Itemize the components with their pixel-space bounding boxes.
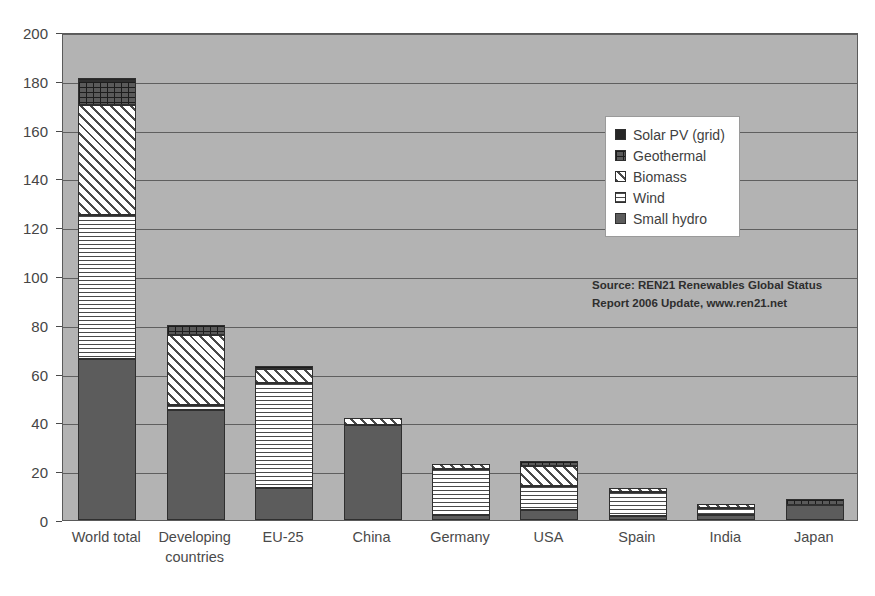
solid-black-swatch-icon: [615, 129, 626, 140]
bar-segment-small-hydro: [255, 488, 313, 520]
bar-segment-small-hydro: [167, 410, 225, 520]
legend-item: Biomass: [615, 166, 725, 187]
bar-segment-small-hydro: [78, 359, 136, 520]
y-axis-tick-label: 40: [31, 415, 48, 432]
bar-segment-wind: [167, 405, 225, 410]
y-axis-tick-mark: [56, 131, 62, 132]
bar-eu-25: [255, 32, 313, 520]
x-axis-label: China: [327, 527, 415, 547]
y-axis-tick-label: 20: [31, 464, 48, 481]
bar-developing-countries: [167, 32, 225, 520]
legend-item: Geothermal: [615, 145, 725, 166]
x-axis-label: USA: [504, 527, 592, 547]
bar-segment-biomass: [344, 418, 402, 425]
bar-segment-small-hydro: [432, 515, 490, 520]
y-axis-tick-mark: [56, 228, 62, 229]
bar-segment-wind: [609, 492, 667, 516]
source-note-line-1: Source: REN21 Renewables Global Status: [592, 276, 875, 294]
legend-item-label: Small hydro: [633, 211, 707, 227]
legend-item: Solar PV (grid): [615, 124, 725, 145]
y-axis-tick-label: 100: [23, 269, 48, 286]
x-axis-label: EU-25: [239, 527, 327, 547]
bar-germany: [432, 32, 490, 520]
y-axis-tick-label: 200: [23, 25, 48, 42]
y-axis-tick-mark: [56, 82, 62, 83]
bar-segment-geothermal: [786, 499, 844, 505]
diagonal-hatch-swatch-icon: [615, 171, 626, 182]
bar-usa: [520, 32, 578, 520]
y-axis-tick-label: 60: [31, 366, 48, 383]
bar-segment-biomass: [78, 105, 136, 215]
solid-dark-swatch-icon: [615, 213, 626, 224]
bar-segment-wind: [78, 215, 136, 359]
legend-item: Small hydro: [615, 208, 725, 229]
bar-segment-biomass: [697, 504, 755, 508]
legend-item: Wind: [615, 187, 725, 208]
x-axis-label: Japan: [770, 527, 858, 547]
y-axis-tick-mark: [56, 179, 62, 180]
legend: Solar PV (grid)GeothermalBiomassWindSmal…: [605, 116, 740, 237]
bar-segment-small-hydro: [609, 516, 667, 520]
y-axis-tick-label: 180: [23, 73, 48, 90]
y-axis-tick-mark: [56, 277, 62, 278]
bar-segment-wind: [255, 383, 313, 488]
legend-item-label: Solar PV (grid): [633, 127, 725, 143]
source-note-line-2: Report 2006 Update, www.ren21.net: [592, 294, 875, 312]
bar-segment-biomass: [520, 466, 578, 486]
x-axis-label: India: [681, 527, 769, 547]
y-axis-tick-label: 140: [23, 171, 48, 188]
bar-segment-wind: [432, 469, 490, 515]
bar-segment-small-hydro: [786, 505, 844, 520]
legend-item-label: Wind: [633, 190, 665, 206]
bar-segment-biomass: [167, 335, 225, 406]
x-axis-label: Spain: [593, 527, 681, 547]
y-axis-tick-mark: [56, 375, 62, 376]
bar-segment-solar-pv-grid-: [78, 78, 136, 80]
y-axis-tick-label: 0: [40, 513, 48, 530]
bar-china: [344, 32, 402, 520]
bar-segment-wind: [520, 486, 578, 510]
stacked-bar-chart: 200180160140120100806040200 Solar PV (gr…: [0, 0, 875, 596]
y-axis-tick-label: 80: [31, 317, 48, 334]
y-axis-tick-mark: [56, 33, 62, 34]
bar-segment-small-hydro: [697, 515, 755, 520]
plot-area: Solar PV (grid)GeothermalBiomassWindSmal…: [62, 33, 858, 521]
bar-segment-geothermal: [167, 325, 225, 335]
x-axis-label: Germany: [416, 527, 504, 547]
bar-segment-biomass: [609, 488, 667, 492]
bar-segment-geothermal: [255, 366, 313, 368]
y-axis-tick-mark: [56, 521, 62, 522]
y-axis-tick-label: 120: [23, 220, 48, 237]
bar-segment-geothermal: [78, 81, 136, 105]
bar-segment-geothermal: [520, 461, 578, 466]
bar-world-total: [78, 32, 136, 520]
y-axis: 200180160140120100806040200: [0, 0, 56, 596]
y-axis-tick-mark: [56, 326, 62, 327]
bar-segment-biomass: [432, 464, 490, 469]
bar-segment-wind: [697, 508, 755, 515]
y-axis-tick-label: 160: [23, 122, 48, 139]
x-axis: World totalDeveloping countriesEU-25Chin…: [62, 527, 858, 587]
horizontal-lines-swatch-icon: [615, 192, 626, 203]
x-axis-label: World total: [62, 527, 150, 547]
bar-segment-biomass: [255, 369, 313, 384]
bar-segment-small-hydro: [344, 425, 402, 520]
bar-segment-small-hydro: [520, 510, 578, 520]
y-axis-tick-mark: [56, 472, 62, 473]
source-note: Source: REN21 Renewables Global Status R…: [592, 276, 875, 312]
y-axis-tick-mark: [56, 423, 62, 424]
legend-item-label: Geothermal: [633, 148, 706, 164]
x-axis-label: Developing countries: [150, 527, 238, 567]
brick-swatch-icon: [615, 150, 626, 161]
legend-item-label: Biomass: [633, 169, 687, 185]
